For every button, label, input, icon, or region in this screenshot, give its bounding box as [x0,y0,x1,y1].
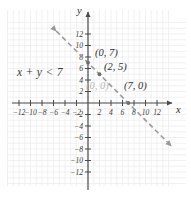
y-tick-label: −6 [74,133,83,142]
x-tick-label: −4 [61,108,70,117]
grid-lines [7,10,186,186]
x-tick-label: −6 [49,108,58,117]
y-tick-label: −10 [70,156,83,165]
x-tick-label: 6 [121,108,125,117]
point-marker [126,101,130,105]
x-tick-label: 4 [109,108,113,117]
x-axis-label: x [175,104,181,115]
x-tick-label: 2 [98,108,102,117]
x-tick-label: 10 [142,108,150,117]
point-marker [98,72,102,76]
y-tick-label: 10 [75,41,83,50]
x-tick-label: 12 [153,108,161,117]
y-tick-label: 12 [75,30,83,39]
y-tick-label: 6 [79,64,83,73]
x-tick-label: −8 [38,108,47,117]
coordinate-plane: −12−10−8−6−4−224681012−12−10−8−6−4−22468… [0,0,191,198]
y-tick-label: −12 [70,168,83,177]
y-tick-label: −4 [74,122,83,131]
x-tick-label: −10 [24,108,37,117]
y-tick-label: 4 [79,76,83,85]
graph-canvas: −12−10−8−6−4−224681012−12−10−8−6−4−22468… [0,0,191,198]
point-marker [86,61,90,65]
y-axis-label: y [76,5,82,16]
y-tick-label: 2 [79,87,83,96]
y-tick-label: −2 [74,110,83,119]
y-tick-label: −8 [74,145,83,154]
